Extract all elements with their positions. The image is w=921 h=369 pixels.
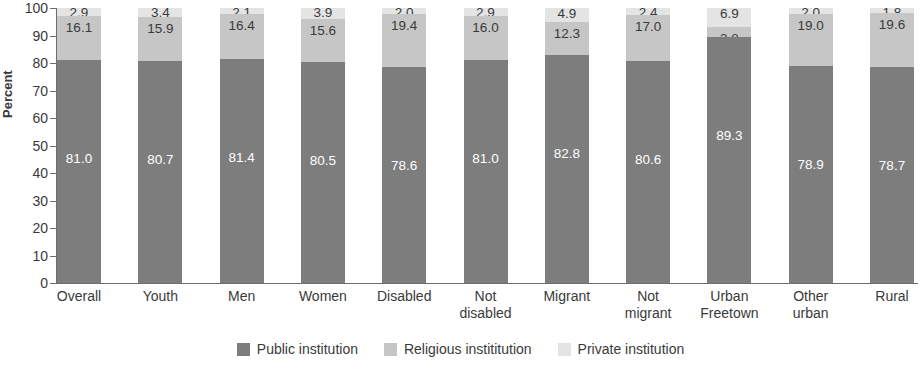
x-axis-category-label: Otherurban <box>765 288 857 322</box>
bar-value-label: 16.0 <box>464 21 508 35</box>
bar-value-label: 16.1 <box>57 21 101 35</box>
bar-value-label: 78.7 <box>870 159 914 173</box>
bar-value-label: 17.0 <box>626 20 670 34</box>
x-axis-category-label-line: Not <box>440 288 532 305</box>
legend-label: Public institution <box>257 341 358 357</box>
y-axis-tick-mark <box>50 63 56 64</box>
bar-segment-religious[interactable]: 15.6 <box>301 19 345 62</box>
x-axis-category-label-line: Rural <box>846 288 921 305</box>
bar-segment-religious[interactable]: 17.0 <box>626 15 670 62</box>
legend-label: Religious instititution <box>404 341 532 357</box>
bar-value-label: 81.0 <box>464 152 508 166</box>
bar-segment-public[interactable]: 80.6 <box>626 61 670 283</box>
x-axis-category-label-line: Overall <box>33 288 125 305</box>
bar-group[interactable]: 6.93.889.3 <box>707 8 751 283</box>
x-axis-category-label: UrbanFreetown <box>683 288 775 322</box>
bar-segment-private[interactable]: 2.4 <box>626 8 670 15</box>
bar-segment-religious[interactable]: 16.4 <box>220 14 264 59</box>
y-axis-tick-label: 40 <box>32 165 48 181</box>
bar-segment-private[interactable]: 2.9 <box>464 8 508 16</box>
bar-segment-public[interactable]: 82.8 <box>545 55 589 283</box>
bar-segment-religious[interactable]: 16.1 <box>57 16 101 60</box>
chart-legend: Public institutionReligious instititutio… <box>0 341 921 357</box>
x-axis-category-label: Youth <box>114 288 206 305</box>
bar-segment-public[interactable]: 81.4 <box>220 59 264 283</box>
bar-group[interactable]: 2.417.080.6 <box>626 8 670 283</box>
x-axis-category-label-line: Other <box>765 288 857 305</box>
y-axis-tick-mark <box>50 36 56 37</box>
legend-swatch-icon <box>558 343 571 356</box>
bar-group[interactable]: 2.019.078.9 <box>789 8 833 283</box>
legend-swatch-icon <box>384 343 397 356</box>
bar-value-label: 80.5 <box>301 154 345 168</box>
x-axis-category-label-line: Freetown <box>683 305 775 322</box>
x-axis-category-label: Notdisabled <box>440 288 532 322</box>
x-axis-category-label: Women <box>277 288 369 305</box>
y-axis-tick-label: 80 <box>32 55 48 71</box>
bar-group[interactable]: 2.116.481.4 <box>220 8 264 283</box>
y-axis-tick-label: 10 <box>32 248 48 264</box>
bar-value-label: 19.0 <box>789 19 833 33</box>
legend-label: Private institution <box>578 341 685 357</box>
x-axis-category-label-line: Youth <box>114 288 206 305</box>
bar-segment-public[interactable]: 89.3 <box>707 37 751 283</box>
bar-segment-religious[interactable]: 15.9 <box>138 17 182 61</box>
bar-segment-private[interactable]: 3.9 <box>301 8 345 19</box>
bar-segment-religious[interactable]: 19.4 <box>382 14 426 67</box>
legend-item[interactable]: Private institution <box>558 341 685 357</box>
bar-value-label: 15.6 <box>301 24 345 38</box>
x-axis-category-label-line: Urban <box>683 288 775 305</box>
y-axis-tick-mark <box>50 201 56 202</box>
bar-group[interactable]: 1.819.678.7 <box>870 8 914 283</box>
bar-value-label: 4.9 <box>545 7 589 21</box>
bar-group[interactable]: 2.916.081.0 <box>464 8 508 283</box>
bar-segment-public[interactable]: 80.5 <box>301 62 345 283</box>
bar-group[interactable]: 4.912.382.8 <box>545 8 589 283</box>
x-axis-category-label: Disabled <box>358 288 450 305</box>
bar-value-label: 19.4 <box>382 19 426 33</box>
bar-value-label: 6.9 <box>707 7 751 21</box>
bar-segment-private[interactable]: 4.9 <box>545 8 589 21</box>
bar-value-label: 81.0 <box>57 152 101 166</box>
bar-segment-public[interactable]: 78.6 <box>382 67 426 283</box>
bar-value-label: 89.3 <box>707 129 751 143</box>
x-axis-category-label-line: disabled <box>440 305 532 322</box>
y-axis-tick-mark <box>50 228 56 229</box>
y-axis-tick-mark <box>50 256 56 257</box>
bar-value-label: 19.6 <box>870 18 914 32</box>
bar-segment-religious[interactable]: 3.8 <box>707 27 751 37</box>
bar-segment-public[interactable]: 81.0 <box>57 60 101 283</box>
bar-value-label: 80.6 <box>626 153 670 167</box>
bar-segment-private[interactable]: 3.4 <box>138 8 182 17</box>
bar-value-label: 78.9 <box>789 158 833 172</box>
legend-item[interactable]: Religious instititution <box>384 341 532 357</box>
y-axis-tick-label: 60 <box>32 110 48 126</box>
bar-segment-public[interactable]: 78.7 <box>870 67 914 283</box>
bar-value-label: 82.8 <box>545 147 589 161</box>
bar-segment-private[interactable]: 6.9 <box>707 8 751 27</box>
bar-segment-public[interactable]: 81.0 <box>464 60 508 283</box>
bar-segment-religious[interactable]: 12.3 <box>545 22 589 56</box>
bar-segment-religious[interactable]: 16.0 <box>464 16 508 60</box>
x-axis-category-label-line: migrant <box>602 305 694 322</box>
x-axis-category-label-line: Men <box>196 288 288 305</box>
bar-segment-religious[interactable]: 19.0 <box>789 14 833 66</box>
bar-segment-private[interactable]: 2.9 <box>57 8 101 16</box>
bar-segment-religious[interactable]: 19.6 <box>870 13 914 67</box>
bar-group[interactable]: 3.915.680.5 <box>301 8 345 283</box>
bar-group[interactable]: 2.019.478.6 <box>382 8 426 283</box>
bar-group[interactable]: 2.916.181.0 <box>57 8 101 283</box>
bar-segment-public[interactable]: 80.7 <box>138 61 182 283</box>
bar-value-label: 81.4 <box>220 151 264 165</box>
legend-item[interactable]: Public institution <box>237 341 358 357</box>
y-axis-tick-mark <box>50 173 56 174</box>
y-axis-tick-mark <box>50 118 56 119</box>
bar-value-label: 12.3 <box>545 27 589 41</box>
bar-value-label: 16.4 <box>220 19 264 33</box>
bar-group[interactable]: 3.415.980.7 <box>138 8 182 283</box>
x-axis-line <box>50 283 918 284</box>
x-axis-category-label: Overall <box>33 288 125 305</box>
bar-value-label: 80.7 <box>138 153 182 167</box>
bar-segment-public[interactable]: 78.9 <box>789 66 833 283</box>
y-axis-tick-label: 90 <box>32 28 48 44</box>
